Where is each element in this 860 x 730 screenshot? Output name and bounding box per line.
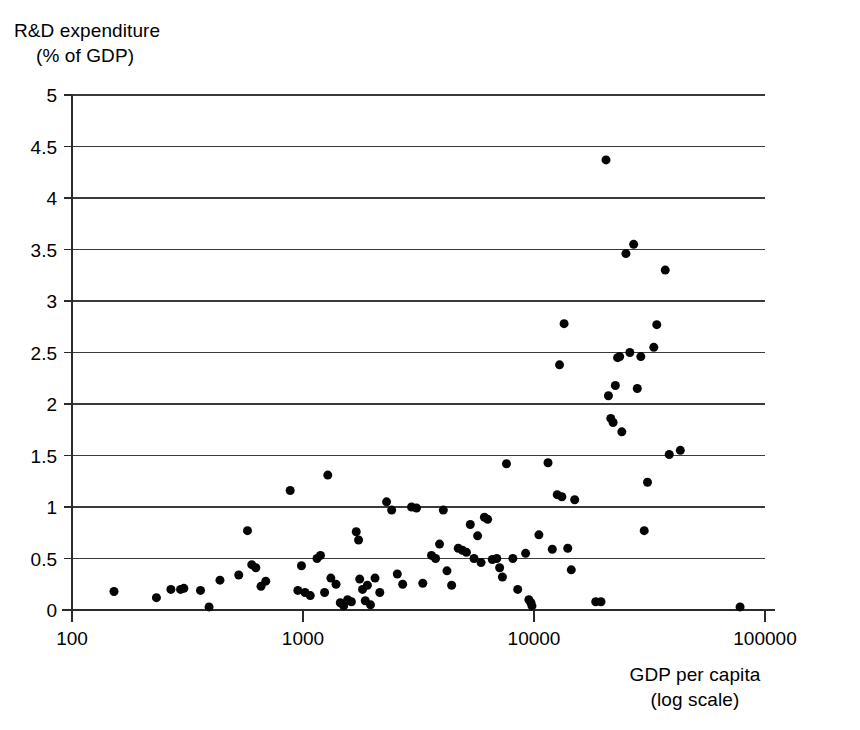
data-point — [398, 580, 407, 589]
data-point — [418, 579, 427, 588]
data-point — [320, 588, 329, 597]
data-point — [483, 515, 492, 524]
data-point — [152, 593, 161, 602]
data-point — [297, 561, 306, 570]
data-point — [649, 343, 658, 352]
y-tick-label-5: 5 — [46, 85, 57, 106]
data-point — [382, 497, 391, 506]
gridlines — [72, 95, 765, 610]
data-point — [323, 471, 332, 480]
data-point — [555, 360, 564, 369]
data-point — [611, 381, 620, 390]
data-point — [286, 486, 295, 495]
data-point — [502, 459, 511, 468]
data-point — [557, 492, 566, 501]
data-point — [412, 504, 421, 513]
data-point — [251, 563, 260, 572]
data-point — [366, 600, 375, 609]
x-tick-label-1000: 1000 — [282, 628, 324, 649]
data-point — [110, 587, 119, 596]
data-point — [435, 540, 444, 549]
data-point — [676, 446, 685, 455]
data-point — [636, 352, 645, 361]
x-tick-label-100000: 100000 — [733, 628, 796, 649]
data-point — [534, 530, 543, 539]
data-point — [560, 319, 569, 328]
data-point — [621, 249, 630, 258]
x-tick-labels: 100100010000100000 — [56, 628, 797, 649]
data-points — [110, 155, 745, 611]
y-tick-label-4.5: 4.5 — [31, 137, 57, 158]
data-point — [527, 601, 536, 610]
data-point — [643, 478, 652, 487]
data-point — [387, 506, 396, 515]
data-point — [652, 320, 661, 329]
data-point — [625, 348, 634, 357]
data-point — [548, 545, 557, 554]
data-point — [604, 391, 613, 400]
data-point — [466, 520, 475, 529]
data-point — [355, 575, 364, 584]
data-point — [371, 574, 380, 583]
data-point — [447, 581, 456, 590]
data-point — [363, 581, 372, 590]
data-point — [567, 565, 576, 574]
data-point — [513, 585, 522, 594]
data-point — [629, 240, 638, 249]
data-point — [431, 554, 440, 563]
y-tick-label-1.5: 1.5 — [31, 446, 57, 467]
data-point — [354, 535, 363, 544]
data-point — [661, 266, 670, 275]
data-point — [665, 450, 674, 459]
scatter-plot: 00.511.522.533.544.55 100100010000100000 — [0, 0, 860, 730]
data-point — [442, 566, 451, 575]
data-point — [215, 576, 224, 585]
tick-marks — [64, 95, 765, 622]
data-point — [492, 554, 501, 563]
data-point — [597, 597, 606, 606]
chart-figure: R&D expenditure (% of GDP) GDP per capit… — [0, 0, 860, 730]
data-point — [477, 558, 486, 567]
data-point — [617, 427, 626, 436]
data-point — [508, 554, 517, 563]
y-tick-label-0: 0 — [46, 600, 57, 621]
y-tick-label-2.5: 2.5 — [31, 343, 57, 364]
data-point — [166, 585, 175, 594]
y-tick-label-0.5: 0.5 — [31, 549, 57, 570]
y-tick-label-3: 3 — [46, 291, 57, 312]
data-point — [473, 531, 482, 540]
data-point — [609, 418, 618, 427]
data-point — [306, 591, 315, 600]
data-point — [316, 551, 325, 560]
data-point — [352, 527, 361, 536]
data-point — [179, 584, 188, 593]
data-point — [602, 155, 611, 164]
data-point — [243, 526, 252, 535]
x-tick-label-10000: 10000 — [508, 628, 561, 649]
data-point — [521, 549, 530, 558]
data-point — [261, 577, 270, 586]
data-point — [544, 458, 553, 467]
data-point — [640, 526, 649, 535]
data-point — [498, 573, 507, 582]
data-point — [615, 352, 624, 361]
data-point — [563, 544, 572, 553]
data-point — [375, 588, 384, 597]
y-tick-label-1: 1 — [46, 497, 57, 518]
y-tick-labels: 00.511.522.533.544.55 — [31, 85, 58, 621]
data-point — [393, 569, 402, 578]
y-tick-label-2: 2 — [46, 394, 57, 415]
data-point — [234, 570, 243, 579]
y-tick-label-3.5: 3.5 — [31, 240, 57, 261]
data-point — [196, 586, 205, 595]
data-point — [736, 602, 745, 611]
data-point — [633, 384, 642, 393]
data-point — [495, 563, 504, 572]
y-tick-label-4: 4 — [46, 188, 57, 209]
data-point — [570, 495, 579, 504]
data-point — [462, 548, 471, 557]
data-point — [332, 580, 341, 589]
data-point — [439, 506, 448, 515]
data-point — [205, 602, 214, 611]
data-point — [347, 597, 356, 606]
